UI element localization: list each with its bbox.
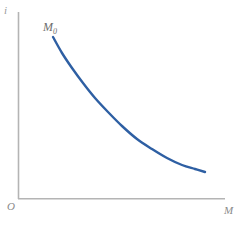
- plot-area: [0, 0, 243, 226]
- demand-curve: [53, 37, 205, 172]
- curve-start-label-base: M: [43, 20, 53, 34]
- origin-label: O: [7, 201, 15, 212]
- y-axis-label: i: [4, 5, 7, 16]
- curve-start-label-subscript: 0: [53, 27, 57, 36]
- investment-money-chart: i O M M0: [0, 0, 243, 226]
- x-axis-label: M: [224, 205, 233, 216]
- curve-start-label: M0: [43, 21, 57, 36]
